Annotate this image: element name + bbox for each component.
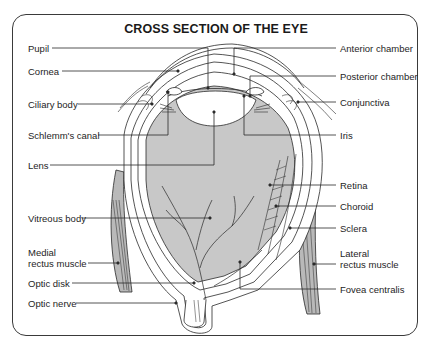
label-conjunctiva: Conjunctiva (340, 97, 390, 108)
label-medial-rectus-line2: rectus muscle (28, 258, 87, 269)
label-retina: Retina (340, 180, 367, 191)
label-anterior-chamber: Anterior chamber (340, 43, 413, 54)
label-lateral-rectus-line1: Lateral (340, 248, 399, 259)
label-schlemms-canal: Schlemm's canal (28, 130, 100, 141)
label-optic-disk: Optic disk (28, 278, 70, 289)
label-medial-rectus-muscle: Medial rectus muscle (28, 247, 87, 269)
label-ciliary-body: Ciliary body (28, 99, 78, 110)
label-medial-rectus-line1: Medial (28, 247, 87, 258)
label-lateral-rectus-line2: rectus muscle (340, 259, 399, 270)
label-cornea: Cornea (28, 66, 59, 77)
label-pupil: Pupil (28, 43, 49, 54)
label-posterior-chamber: Posterior chamber (340, 71, 418, 82)
label-vitreous-body: Vitreous body (28, 213, 86, 224)
label-lens: Lens (28, 160, 49, 171)
label-iris: Iris (340, 130, 353, 141)
label-sclera: Sclera (340, 223, 367, 234)
label-choroid: Choroid (340, 201, 373, 212)
label-optic-nerve: Optic nerve (28, 298, 77, 309)
label-lateral-rectus-muscle: Lateral rectus muscle (340, 248, 399, 270)
label-fovea-centralis: Fovea centralis (340, 284, 404, 295)
